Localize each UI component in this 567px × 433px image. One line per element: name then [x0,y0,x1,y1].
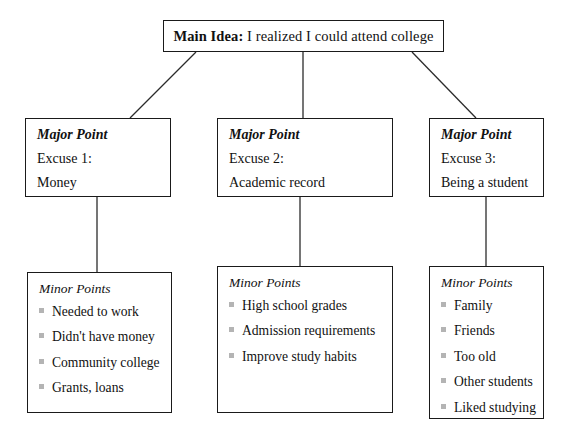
list-item: Family [441,299,533,313]
bullet-square-icon [229,327,234,332]
minor-point-label: Liked studying [454,401,536,415]
major-point-line1-1: Excuse 1: [37,152,159,166]
minor-point-label: Didn't have money [52,330,155,344]
minor-points-title-2: Minor Points [229,276,382,290]
list-item: Didn't have money [39,330,161,344]
minor-points-title-1: Minor Points [39,282,161,296]
list-item: Friends [441,324,533,338]
idea-tree-diagram: Main Idea: I realized I could attend col… [0,0,567,433]
bullet-square-icon [39,333,44,338]
major-point-line1-3: Excuse 3: [441,152,532,166]
minor-point-label: Family [454,299,493,313]
bullet-square-icon [229,302,234,307]
bullet-square-icon [441,404,446,409]
connector-main-to-major-3 [412,52,476,118]
major-point-title-1: Major Point [37,128,159,142]
list-item: Liked studying [441,401,533,415]
major-point-line2-1: Money [37,176,159,190]
major-point-title-2: Major Point [229,128,381,142]
minor-point-label: Admission requirements [242,324,375,338]
main-idea-value: I realized I could attend college [243,28,433,44]
major-point-line2-2: Academic record [229,176,381,190]
minor-point-label: Community college [52,356,160,370]
main-idea-box: Main Idea: I realized I could attend col… [163,20,444,52]
minor-point-label: Other students [454,375,533,389]
bullet-square-icon [441,327,446,332]
bullet-square-icon [39,359,44,364]
minor-point-label: High school grades [242,299,347,313]
list-item: Grants, loans [39,381,161,395]
main-idea-label: Main Idea: [173,28,243,44]
list-item: Community college [39,356,161,370]
minor-points-list-1: Needed to work Didn't have money Communi… [39,305,161,395]
bullet-square-icon [39,384,44,389]
list-item: Other students [441,375,533,389]
major-point-title-3: Major Point [441,128,532,142]
major-point-box-3: Major Point Excuse 3: Being a student [429,118,544,197]
minor-points-box-3: Minor Points Family Friends Too old Othe… [429,266,544,419]
list-item: Needed to work [39,305,161,319]
major-point-line2-3: Being a student [441,176,532,190]
bullet-square-icon [441,302,446,307]
minor-points-title-3: Minor Points [441,276,533,290]
minor-point-label: Too old [454,350,496,364]
list-item: Improve study habits [229,350,382,364]
list-item: High school grades [229,299,382,313]
bullet-square-icon [441,378,446,383]
connector-main-to-major-1 [130,52,196,118]
bullet-square-icon [39,308,44,313]
minor-points-box-1: Minor Points Needed to work Didn't have … [27,272,172,413]
list-item: Too old [441,350,533,364]
main-idea-text: Main Idea: I realized I could attend col… [173,28,433,45]
bullet-square-icon [229,353,234,358]
minor-point-label: Needed to work [52,305,139,319]
minor-points-list-3: Family Friends Too old Other students Li… [441,299,533,415]
minor-point-label: Grants, loans [52,381,124,395]
major-point-box-2: Major Point Excuse 2: Academic record [217,118,393,197]
minor-point-label: Friends [454,324,495,338]
minor-point-label: Improve study habits [242,350,357,364]
minor-points-box-2: Minor Points High school grades Admissio… [217,266,393,413]
major-point-line1-2: Excuse 2: [229,152,381,166]
list-item: Admission requirements [229,324,382,338]
major-point-box-1: Major Point Excuse 1: Money [25,118,171,197]
bullet-square-icon [441,353,446,358]
minor-points-list-2: High school grades Admission requirement… [229,299,382,364]
